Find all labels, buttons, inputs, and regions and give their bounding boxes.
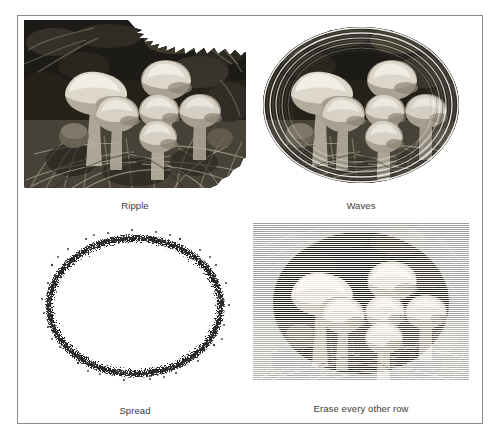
panel-erase-caption: Erase every other row: [250, 403, 472, 415]
erase-rows-effect-svg: [250, 221, 472, 389]
panel-spread: Spread: [24, 221, 246, 419]
panel-ripple-image: [24, 20, 246, 188]
panel-erase-image: [250, 221, 472, 389]
panel-spread-caption: Spread: [24, 405, 246, 417]
ripple-effect-svg: [24, 20, 246, 188]
panel-spread-image: [24, 221, 246, 389]
panel-waves-image: [250, 20, 472, 188]
panel-erase: Erase every other row: [250, 221, 472, 419]
spread-speckle-rim: [46, 235, 224, 377]
spread-effect-svg: [24, 221, 246, 389]
panel-ripple: Ripple: [24, 20, 246, 218]
panel-waves: Waves: [250, 20, 472, 218]
panel-ripple-caption: Ripple: [24, 200, 246, 212]
figure-frame: Ripple: [17, 15, 483, 424]
panel-waves-caption: Waves: [250, 200, 472, 212]
waves-effect-svg: [250, 20, 472, 188]
